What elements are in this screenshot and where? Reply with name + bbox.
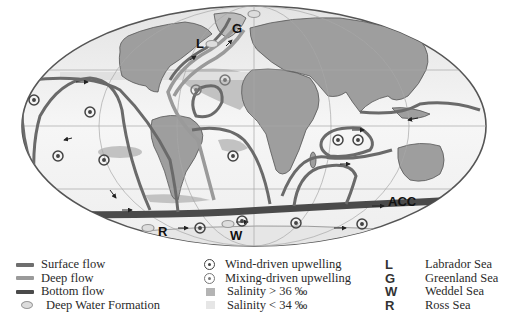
- legend-ross-sea: R Ross Sea: [385, 299, 498, 313]
- legend-labrador-sea: L Labrador Sea: [385, 258, 498, 272]
- legend-seas: L Labrador Sea G Greenland Sea W Weddel …: [385, 258, 498, 312]
- salinity-high-swatch: [206, 288, 215, 296]
- australia: [398, 143, 444, 181]
- legend-surface-flow: Surface flow: [16, 258, 160, 272]
- label-greenland-sea: G: [232, 21, 242, 36]
- label-labrador-sea: L: [196, 36, 204, 51]
- legend-salinity-high: Salinity > 36 ‰: [203, 285, 351, 299]
- salinity-low-swatch: [206, 301, 215, 309]
- legend-weddel-sea: W Weddel Sea: [385, 285, 498, 299]
- surface-flow-swatch: [16, 263, 34, 267]
- wind-upwelling-icon: [204, 259, 215, 270]
- mixing-upwelling-icon: [204, 273, 215, 284]
- label-weddel-sea: W: [230, 228, 243, 243]
- legend-features: Wind-driven upwelling Mixing-driven upwe…: [203, 258, 351, 312]
- bottom-flow-swatch: [16, 290, 34, 294]
- label-acc: ACC: [388, 194, 417, 209]
- legend-mixing-upwelling: Mixing-driven upwelling: [203, 272, 351, 286]
- legend-deep-water-formation: Deep Water Formation: [16, 299, 160, 313]
- legend-deep-flow: Deep flow: [16, 272, 160, 286]
- legend-bottom-flow: Bottom flow: [16, 285, 160, 299]
- legend-greenland-sea: G Greenland Sea: [385, 272, 498, 286]
- legend-flows: Surface flow Deep flow Bottom flow Deep …: [16, 258, 160, 312]
- label-ross-sea: R: [158, 224, 168, 239]
- deep-water-formation-icon: [21, 301, 33, 309]
- deep-flow-swatch: [16, 276, 34, 280]
- legend-salinity-low: Salinity < 34 ‰: [203, 299, 351, 313]
- legend-wind-upwelling: Wind-driven upwelling: [203, 258, 351, 272]
- ocean-circulation-map: L G R W ACC: [0, 0, 508, 250]
